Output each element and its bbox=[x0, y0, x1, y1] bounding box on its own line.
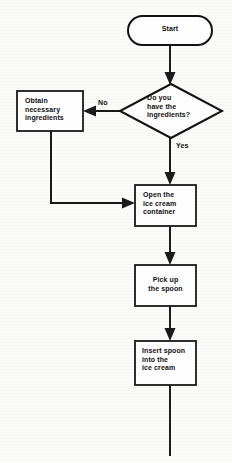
edge-open-to-pick bbox=[165, 226, 176, 265]
edge-decision-no bbox=[83, 106, 120, 117]
edge-pick-to-insert bbox=[165, 306, 176, 341]
edge-label-no: No bbox=[98, 99, 108, 106]
node-open-container-label: Open the ice cream container bbox=[143, 191, 198, 217]
node-decision-label: Do you have the ingredients? bbox=[147, 94, 217, 120]
flowchart-canvas bbox=[0, 0, 232, 463]
flowchart-page: Start Do you have the ingredients? Obtai… bbox=[0, 0, 232, 463]
edge-decision-yes bbox=[165, 138, 176, 185]
edge-obtain-to-open bbox=[51, 131, 135, 209]
edge-label-yes: Yes bbox=[176, 142, 188, 149]
node-insert-spoon-label: Insert spoon into the ice cream bbox=[142, 347, 198, 373]
node-pick-spoon-label: Pick up the spoon bbox=[135, 276, 196, 293]
node-start-label: Start bbox=[128, 25, 212, 34]
node-obtain-label: Obtain necessary ingredients bbox=[25, 97, 83, 123]
edge-start-to-decision bbox=[165, 45, 176, 85]
